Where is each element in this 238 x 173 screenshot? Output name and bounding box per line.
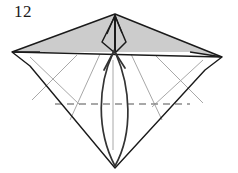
origami-diagram-figure: 12 Origami step 12 — diamond base with p… xyxy=(0,0,238,173)
origami-illustration: Origami step 12 — diamond base with peta… xyxy=(0,0,238,173)
